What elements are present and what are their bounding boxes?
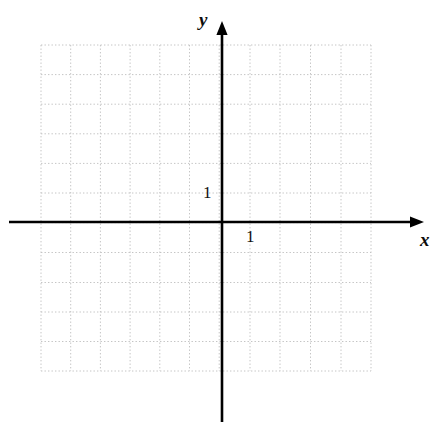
- x-axis: [9, 216, 424, 227]
- x-axis-unit-tick-label: 1: [246, 228, 255, 245]
- y-axis-unit-tick-label: 1: [203, 184, 212, 201]
- grid-lines-vertical: [41, 45, 371, 371]
- y-axis-label: y: [199, 10, 207, 29]
- coordinate-plane-svg: [0, 0, 435, 422]
- graph-figure: y x 1 1: [0, 0, 435, 422]
- grid-lines-horizontal: [41, 45, 371, 371]
- x-axis-label: x: [420, 230, 430, 249]
- y-axis-arrowhead-icon: [216, 21, 227, 35]
- x-axis-arrowhead-icon: [410, 216, 424, 227]
